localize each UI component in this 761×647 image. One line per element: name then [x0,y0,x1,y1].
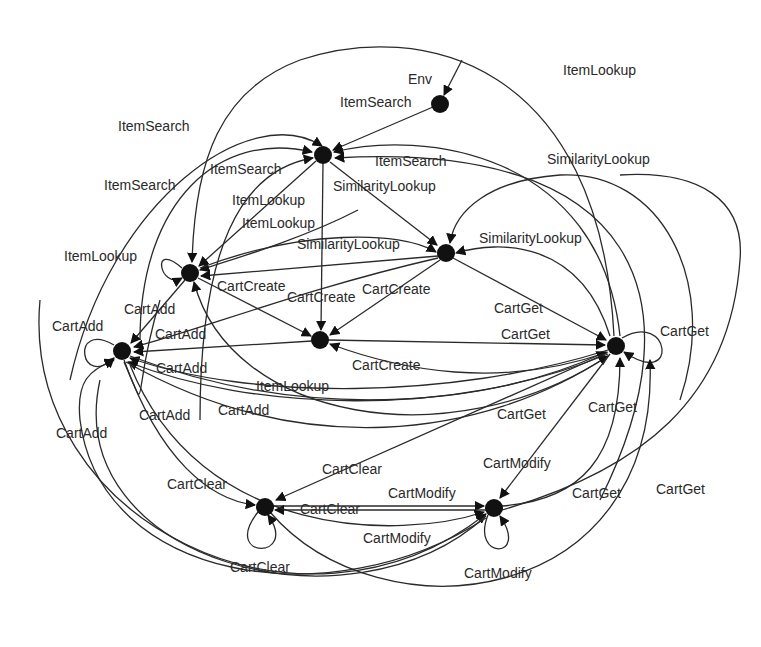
edge-label: CartGet [660,323,709,339]
itemlookup-node[interactable] [181,264,199,282]
edge-label: ItemSearch [104,177,176,193]
edge-label: CartCreate [352,357,421,373]
edge-label: CartGet [572,485,621,501]
state-machine-diagram: EnvItemSearchItemLookupItemSearchItemSea… [0,0,761,647]
edge-label: CartAdd [124,301,175,317]
entry-edge [444,60,462,95]
edge-label: CartCreate [217,278,286,294]
edge-label: CartAdd [56,425,107,441]
edge-itemsearch-arc5 [335,157,645,500]
edge-label: CartGet [588,399,637,415]
edge-label: CartAdd [155,326,206,342]
edge-label: CartModify [388,485,456,501]
edge-label: CartModify [363,530,431,546]
edge-label: CartClear [300,501,360,517]
edge-label: CartAdd [156,360,207,376]
edge-label: CartAdd [139,407,190,423]
edge-label: ItemSearch [340,94,412,110]
edge-label: SimilarityLookup [333,178,436,194]
edge-label: Env [408,71,432,87]
edge-label: CartClear [322,461,382,477]
cartcreate-node[interactable] [311,331,329,349]
edge-cartget-5 [502,358,620,506]
cartadd-node[interactable] [113,342,131,360]
edge-label: ItemLookup [64,248,137,264]
edge-label: SimilarityLookup [479,230,582,246]
edge-label: CartGet [494,300,543,316]
similaritylookup-node[interactable] [437,244,455,262]
edge-label: CartAdd [52,318,103,334]
edge-similarity-3 [456,247,610,336]
edge-label: CartModify [464,565,532,581]
cartclear-self-loop [248,512,276,548]
edge-itemsearch [333,107,433,150]
edge-cartget-2 [328,340,605,345]
itemlookup-self-loop [162,259,182,280]
edge-label: CartClear [230,559,290,575]
edge-label: CartGet [497,406,546,422]
edge-label: ItemLookup [256,378,329,394]
edge-label: CartAdd [218,402,269,418]
edge-label: CartGet [501,326,550,342]
edge-label: CartModify [483,455,551,471]
cartmodify-self-loop [485,515,509,549]
edge-similarity [330,162,437,245]
cartclear-node[interactable] [256,498,274,516]
edge-label: CartCreate [362,281,431,297]
edge-label: ItemLookup [232,192,305,208]
edge-itemlookup-4 [194,282,608,415]
edge-labels: EnvItemSearchItemLookupItemSearchItemSea… [52,62,709,581]
edge-label: ItemLookup [563,62,636,78]
itemsearch-node[interactable] [314,146,332,164]
cartget-node[interactable] [607,337,625,355]
cartget-self-loop [622,332,662,363]
edge-label: CartClear [167,476,227,492]
cartmodify-node[interactable] [485,499,503,517]
edge-label: ItemSearch [210,161,282,177]
edge-label: ItemSearch [118,118,190,134]
edge-label: SimilarityLookup [547,151,650,167]
start-node[interactable] [431,95,449,113]
edge-label: CartGet [656,481,705,497]
edge-label: ItemLookup [242,215,315,231]
edge-label: CartCreate [287,289,356,305]
edge-label: SimilarityLookup [297,236,400,252]
edge-cartadd-3 [134,341,312,352]
edge-label: ItemSearch [375,153,447,169]
